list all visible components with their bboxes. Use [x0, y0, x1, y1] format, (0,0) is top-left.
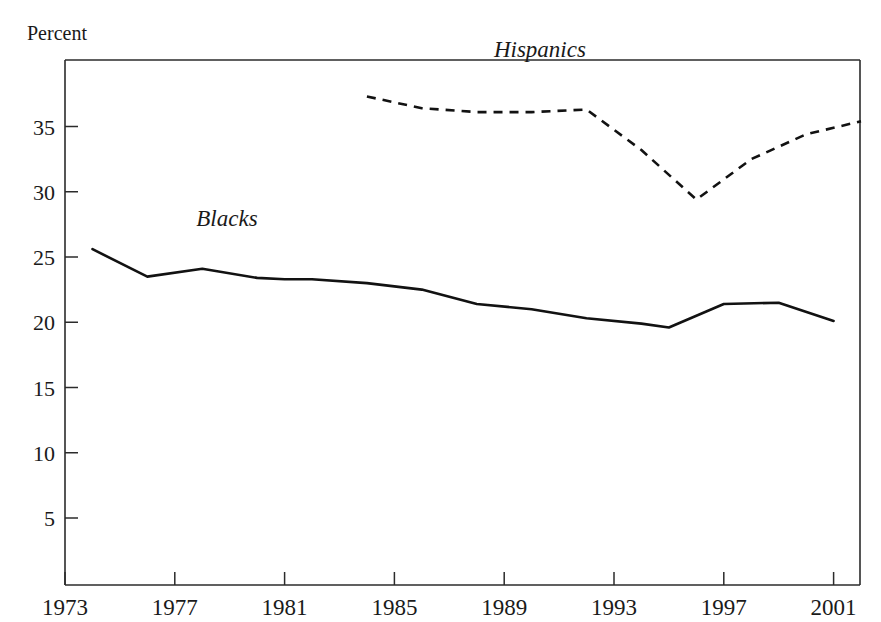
x-tick-label-1989: 1989 — [481, 595, 527, 620]
x-tick-label-1985: 1985 — [371, 595, 417, 620]
x-tick-label-1993: 1993 — [591, 595, 637, 620]
x-axis-ticks — [65, 572, 834, 585]
y-axis-title: Percent — [27, 22, 87, 44]
y-tick-label-5: 5 — [44, 506, 55, 531]
x-tick-label-1977: 1977 — [152, 595, 198, 620]
series-label-blacks: Blacks — [196, 206, 257, 231]
y-tick-label-10: 10 — [33, 441, 55, 466]
x-tick-label-1997: 1997 — [701, 595, 747, 620]
series-label-hispanics: Hispanics — [493, 37, 586, 62]
x-axis-tick-labels: 19731977198119851989199319972001 — [42, 595, 857, 620]
y-axis-tick-labels: 5101520253035 — [33, 115, 55, 532]
y-tick-label-25: 25 — [33, 245, 55, 270]
series-line-hispanics — [367, 97, 861, 200]
y-tick-label-30: 30 — [33, 180, 55, 205]
series-line-blacks — [93, 249, 834, 327]
y-tick-label-35: 35 — [33, 115, 55, 140]
x-tick-label-2001: 2001 — [811, 595, 857, 620]
y-tick-label-15: 15 — [33, 376, 55, 401]
series-annotations-group: BlacksHispanics — [196, 37, 586, 230]
plot-frame — [65, 60, 860, 585]
x-tick-label-1973: 1973 — [42, 595, 88, 620]
line-chart-svg: Percent 5101520253035 197319771981198519… — [0, 0, 881, 622]
y-axis-ticks — [65, 127, 78, 519]
y-tick-label-20: 20 — [33, 310, 55, 335]
chart-container: Percent 5101520253035 197319771981198519… — [0, 0, 881, 622]
x-tick-label-1981: 1981 — [262, 595, 308, 620]
